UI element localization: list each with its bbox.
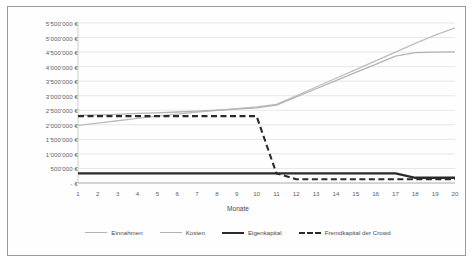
y-tick-label: 500'000 € [51,165,78,172]
x-axis-tick-labels: 1234567891011121314151617181920 [0,190,476,202]
y-tick-label: 3'000'000 € [46,92,78,99]
series-layer [78,28,455,179]
series-line-3 [78,116,455,179]
series-line-2 [78,173,455,177]
series-line-0 [78,28,455,125]
x-tick-label: 9 [235,190,238,197]
x-tick-label: 18 [412,190,419,197]
x-axis-title: Monate [0,205,476,212]
x-tick-label: 7 [195,190,198,197]
plot-area-border [78,23,455,183]
y-tick-label: 4'500'000 € [46,49,78,56]
x-tick-label: 14 [332,190,339,197]
solid-light-line-icon [85,232,107,233]
x-tick-label: 16 [372,190,379,197]
x-tick-label: 2 [96,190,99,197]
gridlines [78,23,455,183]
dashed-dark-line-icon [299,232,321,234]
y-tick-label: - € [71,180,78,187]
x-tick-label: 17 [392,190,399,197]
x-tick-label: 10 [253,190,260,197]
x-tick-label: 6 [175,190,178,197]
legend-item-eigenkapital[interactable]: Eigenkapital [222,229,282,236]
legend-item-einnahmen[interactable]: Einnahmen [85,229,142,236]
y-axis-tick-labels: - €500'000 €1'000'000 €1'500'000 €2'000'… [14,0,78,264]
y-tick-label: 1'500'000 € [46,136,78,143]
solid-light-line-icon [160,232,182,233]
y-tick-label: 2'500'000 € [46,107,78,114]
x-tick-label: 20 [452,190,459,197]
legend-item-label: Kosten [186,229,205,236]
solid-dark-line-icon [222,232,244,234]
x-tick-label: 13 [313,190,320,197]
x-tick-label: 19 [432,190,439,197]
y-tick-label: 3'500'000 € [46,78,78,85]
legend-item-label: Einnahmen [111,229,142,236]
y-tick-label: 2'000'000 € [46,121,78,128]
legend-item-label: Eigenkapital [248,229,282,236]
y-tick-label: 4'000'000 € [46,63,78,70]
y-tick-label: 5'000'000 € [46,34,78,41]
legend-item-kosten[interactable]: Kosten [160,229,205,236]
series-line-1 [78,52,455,116]
x-tick-label: 5 [156,190,159,197]
x-tick-label: 3 [116,190,119,197]
y-tick-label: 5'500'000 € [46,20,78,27]
x-tick-label: 12 [293,190,300,197]
x-tick-label: 8 [215,190,218,197]
legend-item-label: Fremdkapital der Crowd [325,229,391,236]
chart-legend: EinnahmenKostenEigenkapitalFremdkapital … [0,229,476,236]
x-tick-label: 1 [76,190,79,197]
legend-item-fremdkapital-der-crowd[interactable]: Fremdkapital der Crowd [299,229,391,236]
x-tick-label: 11 [273,190,279,197]
x-tick-label: 4 [136,190,139,197]
y-tick-label: 1'000'000 € [46,150,78,157]
x-tick-label: 15 [352,190,359,197]
